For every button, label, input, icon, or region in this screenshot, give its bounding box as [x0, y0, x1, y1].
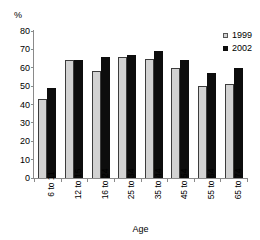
- x-axis-tick-mark: [247, 178, 248, 182]
- x-axis-label-cell: 6 to 11: [34, 184, 61, 226]
- y-axis-tick-label: 30: [20, 118, 30, 127]
- y-axis-tick-label: 60: [20, 63, 30, 72]
- x-axis-category-label: 25 to 34: [127, 169, 136, 200]
- bar-group: [167, 31, 194, 178]
- bar-1999-12-to-15: [65, 60, 74, 178]
- x-axis-label-cell: 35 to 44: [141, 184, 168, 226]
- x-axis-category-labels: 6 to 1112 to 1516 to 2425 to 3435 to 444…: [34, 184, 247, 226]
- bar-1999-35-to-44: [145, 59, 154, 178]
- bar-chart: % 01020304050607080 6 to 1112 to 1516 to…: [0, 0, 260, 240]
- y-axis-tick-label: 0: [25, 174, 30, 183]
- x-axis-label-cell: 16 to 24: [87, 184, 114, 226]
- x-axis-tick-mark: [87, 178, 88, 182]
- bar-group: [114, 31, 141, 178]
- x-axis-category-label: 65 to 74: [234, 169, 243, 200]
- bar-group: [34, 31, 61, 178]
- x-axis-category-label: 55 to 64: [207, 169, 216, 200]
- x-axis-tick-mark: [61, 178, 62, 182]
- legend-label-2002: 2002: [232, 43, 252, 54]
- bar-1999-25-to-34: [118, 57, 127, 178]
- x-axis-tick-mark: [194, 178, 195, 182]
- x-axis-category-label: 16 to 24: [101, 169, 110, 200]
- x-axis-tick-mark: [141, 178, 142, 182]
- y-axis-tick-label: 50: [20, 82, 30, 91]
- x-axis-label-cell: 12 to 15: [61, 184, 88, 226]
- y-axis-tick-label: 70: [20, 45, 30, 54]
- legend-label-1999: 1999: [232, 30, 252, 41]
- y-axis-tick-label: 80: [20, 27, 30, 36]
- x-axis-category-label: 45 to 54: [180, 169, 189, 200]
- bar-1999-55-to-64: [198, 86, 207, 178]
- legend: 1999 2002: [223, 30, 252, 56]
- plot-area: 01020304050607080: [34, 31, 247, 178]
- x-axis-label-cell: 65 to 74: [220, 184, 247, 226]
- x-axis-tick-mark: [34, 178, 35, 182]
- x-axis-category-label: 35 to 44: [154, 169, 163, 200]
- bar-2002-65-to-74: [234, 68, 243, 178]
- bar-2002-35-to-44: [154, 51, 163, 178]
- x-axis-tick-mark: [167, 178, 168, 182]
- x-axis-title: Age: [34, 224, 247, 234]
- bar-1999-45-to-54: [171, 68, 180, 178]
- bar-1999-16-to-24: [92, 71, 101, 178]
- legend-item-2002: 2002: [223, 43, 252, 54]
- y-axis-tick-label: 10: [20, 155, 30, 164]
- x-axis-category-label: 6 to 11: [47, 171, 56, 196]
- legend-swatch-2002-icon: [223, 46, 228, 51]
- bar-group: [61, 31, 88, 178]
- x-axis-label-cell: 45 to 54: [167, 184, 194, 226]
- x-axis-category-label: 12 to 15: [74, 169, 83, 200]
- bar-2002-55-to-64: [207, 73, 216, 178]
- x-axis-label-cell: 55 to 64: [194, 184, 221, 226]
- bar-2002-45-to-54: [180, 60, 189, 178]
- legend-swatch-1999-icon: [223, 33, 228, 38]
- bar-2002-12-to-15: [74, 60, 83, 178]
- bar-2002-16-to-24: [101, 57, 110, 178]
- x-axis-tick-mark: [114, 178, 115, 182]
- bar-groups: [34, 31, 247, 178]
- x-axis-tick-mark: [220, 178, 221, 182]
- y-axis-unit-label: %: [14, 10, 22, 20]
- bar-1999-6-to-11: [38, 99, 47, 178]
- bar-2002-25-to-34: [127, 55, 136, 178]
- x-axis-label-cell: 25 to 34: [114, 184, 141, 226]
- bar-group: [87, 31, 114, 178]
- bar-1999-65-to-74: [225, 84, 234, 178]
- y-axis-tick-label: 40: [20, 100, 30, 109]
- bar-group: [141, 31, 168, 178]
- y-axis-tick-label: 20: [20, 137, 30, 146]
- bar-2002-6-to-11: [47, 88, 56, 178]
- bar-group: [194, 31, 221, 178]
- legend-item-1999: 1999: [223, 30, 252, 41]
